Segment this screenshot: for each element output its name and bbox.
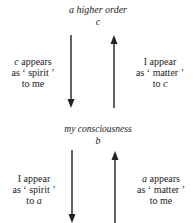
- arrow-up-icon: [112, 151, 119, 223]
- arrows-layer: [0, 0, 196, 223]
- arrow-up-icon: [111, 35, 118, 108]
- arrow-down-icon: [68, 35, 75, 108]
- arrow-down-icon: [69, 150, 76, 223]
